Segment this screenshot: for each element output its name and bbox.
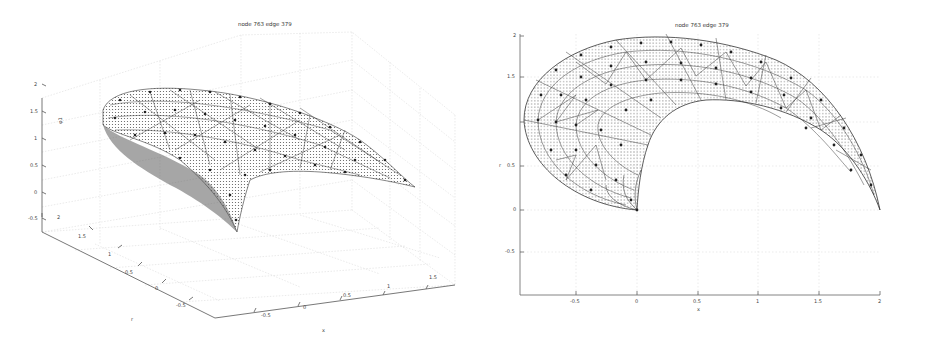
y-axis-label: r <box>499 163 501 168</box>
x-tick-label: 0.5 <box>693 299 701 304</box>
x-axis-line <box>215 285 455 318</box>
z-tick-label: 1.5 <box>30 109 38 114</box>
y-tick-label: 2 <box>57 215 60 220</box>
x-tick-label: 1.5 <box>429 275 437 280</box>
z-tick-label: 0.5 <box>30 163 38 168</box>
x-tick-label: 2 <box>878 299 881 304</box>
plot-2d: node 763 edge 379 <box>466 0 932 339</box>
y-tick-label: 0 <box>155 286 158 291</box>
y-axis-line <box>42 232 215 318</box>
z-tick-label: 1 <box>34 136 37 141</box>
y-tick-label: 1 <box>108 252 111 257</box>
x-axis-label: x <box>322 328 325 333</box>
x-tick-label: 0.5 <box>343 293 351 298</box>
y-tick-label: 1.5 <box>78 234 86 239</box>
plot-3d-canvas <box>0 0 466 339</box>
y-axis-label: r <box>131 317 133 322</box>
y-tick-label: 0.5 <box>507 163 515 168</box>
x-tick-label: 0 <box>635 299 638 304</box>
x-tick-label: 1.5 <box>814 299 822 304</box>
z-tick-label: 2 <box>34 82 37 87</box>
y-tick-label: -0.5 <box>176 303 186 308</box>
surface-3d <box>103 88 415 232</box>
x-tick-label: 1 <box>756 299 759 304</box>
mesh-2d <box>524 34 880 211</box>
x-tick-label: -0.5 <box>570 299 580 304</box>
y-tick-label: 0 <box>513 207 516 212</box>
z-tick-label: 0 <box>34 190 37 195</box>
x-tick-label: 0 <box>303 305 306 310</box>
y-tick-label: 1.5 <box>507 74 515 79</box>
figure: node 763 edge 379 <box>0 0 932 339</box>
y-tick-label: 0.5 <box>125 270 133 275</box>
y-tick-label: 2 <box>513 33 516 38</box>
x-ticks <box>254 285 428 312</box>
z-tick-label: -0.5 <box>28 216 38 221</box>
x-tick-label: -0.5 <box>261 313 271 318</box>
y-tick-label: -0.5 <box>505 249 515 254</box>
x-tick-label: 1 <box>387 284 390 289</box>
z-axis-label: φ1 <box>58 117 63 123</box>
plot-3d: node 763 edge 379 <box>0 0 466 339</box>
x-axis-label: x <box>697 307 700 312</box>
y-ticks <box>42 213 193 300</box>
plot-2d-canvas <box>466 0 932 339</box>
